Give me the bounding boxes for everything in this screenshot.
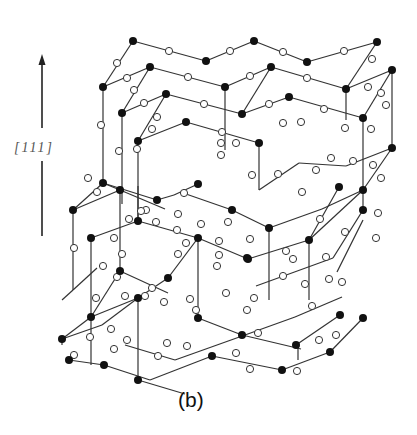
black-atom xyxy=(87,313,95,321)
white-atom xyxy=(152,218,159,225)
white-atom xyxy=(322,253,329,260)
white-atom xyxy=(364,83,371,90)
white-atom xyxy=(141,292,148,299)
white-atom xyxy=(368,55,375,62)
black-atom xyxy=(134,217,142,225)
bond xyxy=(138,221,198,238)
white-atom xyxy=(107,325,114,332)
black-atom xyxy=(162,90,170,98)
black-atom xyxy=(255,139,263,147)
white-atom xyxy=(246,72,253,79)
white-atom xyxy=(174,250,181,257)
white-atom xyxy=(148,125,155,132)
black-atom xyxy=(336,311,344,319)
bond xyxy=(62,325,102,339)
black-atom xyxy=(238,110,246,118)
black-atom xyxy=(267,63,275,71)
white-atom xyxy=(186,295,193,302)
black-atom xyxy=(388,66,396,74)
black-atom xyxy=(359,206,367,214)
black-atom xyxy=(134,376,142,384)
white-atom xyxy=(165,47,172,54)
white-atom xyxy=(97,121,104,128)
white-atom xyxy=(113,59,120,66)
white-atom xyxy=(160,298,167,305)
black-atom xyxy=(359,114,367,122)
white-atom xyxy=(110,345,117,352)
white-atom xyxy=(250,294,257,301)
bond xyxy=(103,183,157,200)
white-atom xyxy=(274,170,281,177)
black-atom xyxy=(326,348,334,356)
white-atom xyxy=(215,251,222,258)
black-atom xyxy=(194,234,202,242)
black-atom xyxy=(194,180,202,188)
bond xyxy=(186,194,232,210)
black-atom xyxy=(99,179,107,187)
white-atom xyxy=(183,342,190,349)
black-atom xyxy=(265,224,273,232)
white-atom xyxy=(303,74,310,81)
black-atom xyxy=(164,274,172,282)
white-atom xyxy=(372,234,379,241)
black-atom xyxy=(58,335,66,343)
black-atom xyxy=(99,83,107,91)
white-atom xyxy=(279,272,286,279)
white-atom xyxy=(232,349,239,356)
white-atom xyxy=(123,74,130,81)
white-atom xyxy=(184,73,191,80)
white-atom xyxy=(279,48,286,55)
black-atom xyxy=(373,38,381,46)
white-atom xyxy=(369,161,376,168)
white-atom xyxy=(217,139,224,146)
white-atom xyxy=(140,99,147,106)
black-atom xyxy=(116,267,124,275)
white-atom xyxy=(246,235,253,242)
black-atom xyxy=(292,341,300,349)
black-atom xyxy=(118,109,126,117)
white-atom xyxy=(118,250,125,257)
crystal-structure-diagram xyxy=(0,0,417,435)
bond xyxy=(242,335,301,349)
white-atom xyxy=(289,255,296,262)
bond xyxy=(295,297,342,317)
white-atom xyxy=(224,218,231,225)
white-atom xyxy=(248,171,255,178)
white-atom xyxy=(374,209,381,216)
bond xyxy=(104,365,150,380)
bond xyxy=(248,240,309,259)
bond-lines xyxy=(62,41,392,394)
black-atom xyxy=(388,144,396,152)
white-atom xyxy=(218,128,225,135)
black-atom xyxy=(335,183,343,191)
white-atom xyxy=(315,336,322,343)
bond xyxy=(232,210,269,228)
black-atom xyxy=(221,83,229,91)
white-atom xyxy=(173,226,180,233)
white-atom xyxy=(200,100,207,107)
white-atom xyxy=(308,302,315,309)
white-atom xyxy=(265,100,272,107)
white-atom xyxy=(137,207,144,214)
white-atom xyxy=(243,306,250,313)
bond xyxy=(309,187,339,240)
white-atom xyxy=(86,333,93,340)
white-atom xyxy=(123,336,130,343)
black-atom xyxy=(65,356,73,364)
figure-caption: (b) xyxy=(178,388,204,412)
black-atom xyxy=(305,236,313,244)
black-atom xyxy=(359,186,367,194)
arrow-head-icon xyxy=(39,54,46,65)
white-atom xyxy=(367,125,374,132)
white-atom xyxy=(377,174,384,181)
white-atom xyxy=(215,237,222,244)
white-atom xyxy=(213,262,220,269)
white-atom xyxy=(133,145,140,152)
black-atom xyxy=(134,294,142,302)
direction-label-111: [111] xyxy=(9,140,59,156)
black-atom xyxy=(194,314,202,322)
white-atom xyxy=(332,331,339,338)
black-atom xyxy=(69,206,77,214)
white-atom xyxy=(316,215,323,222)
white-atom xyxy=(298,188,305,195)
